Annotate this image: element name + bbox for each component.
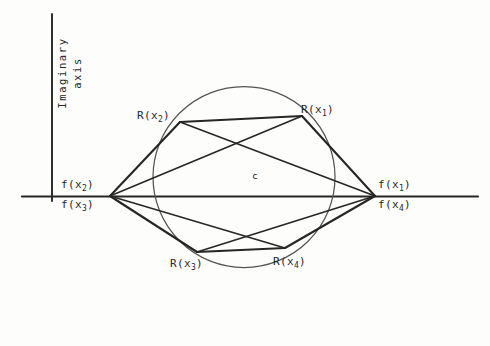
label-R-x2: R(x2)	[137, 110, 170, 124]
label-f-x2: f(x2)	[61, 179, 94, 193]
label-f-x4-close: )	[404, 198, 411, 211]
imaginary-axis-label-line2: axis	[70, 19, 85, 127]
edge-fx2-Rx2	[110, 122, 180, 196]
label-R-x1-text: R(x	[301, 103, 322, 116]
label-f-x4-text: f(x	[378, 198, 399, 211]
label-R-x3-text: R(x	[170, 257, 191, 270]
label-R-x3-close: )	[196, 257, 203, 270]
axes-group	[22, 14, 478, 201]
label-f-x2-close: )	[87, 178, 94, 191]
label-f-x1-close: )	[404, 178, 411, 191]
edge-fx1-Rx4	[285, 196, 375, 248]
label-R-x3: R(x3)	[170, 258, 203, 272]
label-center-c: c	[252, 171, 258, 181]
label-R-x1-close: )	[327, 103, 334, 116]
imaginary-axis-label: Imaginary axis	[55, 19, 81, 127]
label-R-x4-text: R(x	[273, 255, 294, 268]
diagonal-fx1-Rx2	[180, 122, 375, 196]
label-R-x4: R(x4)	[273, 256, 306, 270]
label-R-x1: R(x1)	[301, 104, 334, 118]
label-f-x3: f(x3)	[61, 199, 94, 213]
figure-canvas: Imaginary axis R(x2) R(x1) R(x3) R(x4) f…	[0, 0, 490, 346]
label-R-x2-close: )	[163, 109, 170, 122]
edge-Rx2-Rx1	[180, 116, 302, 122]
label-f-x1: f(x1)	[378, 179, 411, 193]
imaginary-axis-label-line1: Imaginary	[55, 19, 70, 127]
label-f-x1-text: f(x	[378, 178, 399, 191]
diagonal-fx1-Rx3	[197, 196, 375, 252]
label-R-x2-text: R(x	[137, 109, 158, 122]
edge-Rx3-fx2	[110, 196, 197, 252]
label-f-x4: f(x4)	[378, 199, 411, 213]
label-R-x4-close: )	[299, 255, 306, 268]
label-f-x3-text: f(x	[61, 198, 82, 211]
diagonal-fx2-Rx1	[110, 116, 302, 196]
label-f-x2-text: f(x	[61, 178, 82, 191]
diagonal-fx2-Rx4	[110, 196, 285, 248]
label-f-x3-close: )	[87, 198, 94, 211]
edge-Rx1-fx1	[302, 116, 375, 196]
